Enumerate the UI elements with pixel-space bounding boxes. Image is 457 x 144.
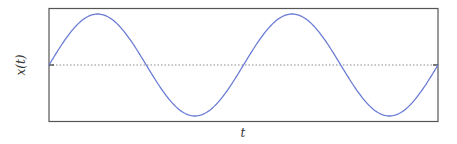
sine-wave-chart: t x(t) [0, 0, 457, 144]
x-axis-label: t [241, 126, 246, 140]
y-axis-label: x(t) [14, 54, 28, 75]
sine-curve [49, 14, 438, 116]
